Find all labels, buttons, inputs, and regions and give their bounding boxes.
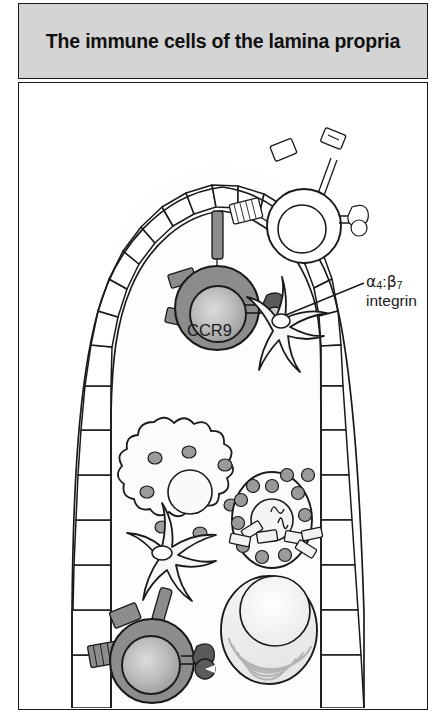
diagram-panel: CCR9 α4:β7 integrin <box>18 82 428 710</box>
receptor-right-integrin <box>339 205 368 236</box>
lymphocyte-nucleus <box>122 636 180 694</box>
label-integrin-line1: α4:β7 <box>366 273 417 292</box>
beta-subscript: 7 <box>397 279 403 291</box>
label-integrin-line2: integrin <box>366 292 417 309</box>
dendritic-nucleus <box>272 314 290 328</box>
cell-plasma <box>221 576 317 684</box>
figure-root: The immune cells of the lamina propria <box>0 0 445 714</box>
page-title: The immune cells of the lamina propria <box>46 30 400 53</box>
alpha-symbol: α <box>366 273 376 291</box>
beta-symbol: β <box>387 273 397 291</box>
epithelium-right-wall <box>321 345 364 708</box>
title-bar: The immune cells of the lamina propria <box>18 3 428 79</box>
plasma-cell-nucleus <box>240 576 310 646</box>
villus-diagram <box>19 83 426 708</box>
label-integrin: α4:β7 integrin <box>366 273 417 309</box>
receptor-upper-left <box>270 138 297 161</box>
macrophage-nucleus <box>168 470 212 514</box>
label-ccr9: CCR9 <box>187 321 232 339</box>
dendritic-nucleus <box>152 546 172 560</box>
lymphocyte-nucleus-outline <box>278 205 326 253</box>
